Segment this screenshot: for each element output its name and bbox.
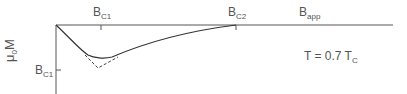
x-tick-label-bc1: BC1 <box>93 6 111 21</box>
magnetization-chart <box>0 0 407 94</box>
y-tick-label-bc1: BC1 <box>35 64 53 79</box>
y-axis-label: μ0M <box>2 39 19 62</box>
x-axis-label: Bapp <box>299 6 320 21</box>
solid-magnetization-curve <box>56 25 236 58</box>
temperature-annotation: T = 0.7 TC <box>304 50 358 65</box>
x-tick-label-bc2: BC2 <box>228 6 246 21</box>
